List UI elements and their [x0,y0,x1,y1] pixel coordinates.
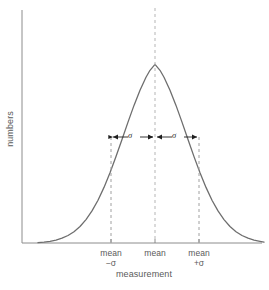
normal-distribution-chart: σ σ mean −σ mean mean +σ numbers measure… [0,0,269,290]
tick-label-line1: mean [100,248,121,258]
y-axis-title: numbers [5,99,15,159]
x-tick-label-mean-plus-sigma: mean +σ [169,248,229,268]
sigma-span-left-arrow [113,135,153,140]
chart-canvas [0,0,269,290]
sigma-label-left: σ [128,130,132,140]
sigma-label-right: σ [172,130,176,140]
tick-label-line1: mean [188,248,209,258]
tick-label-line2: −σ [81,258,141,268]
gaussian-curve [38,64,264,242]
tick-label-line2: +σ [169,258,229,268]
sigma-span-right-arrow [157,135,197,140]
tick-label-line1: mean [144,248,165,258]
x-axis-title: measurement [84,269,204,279]
